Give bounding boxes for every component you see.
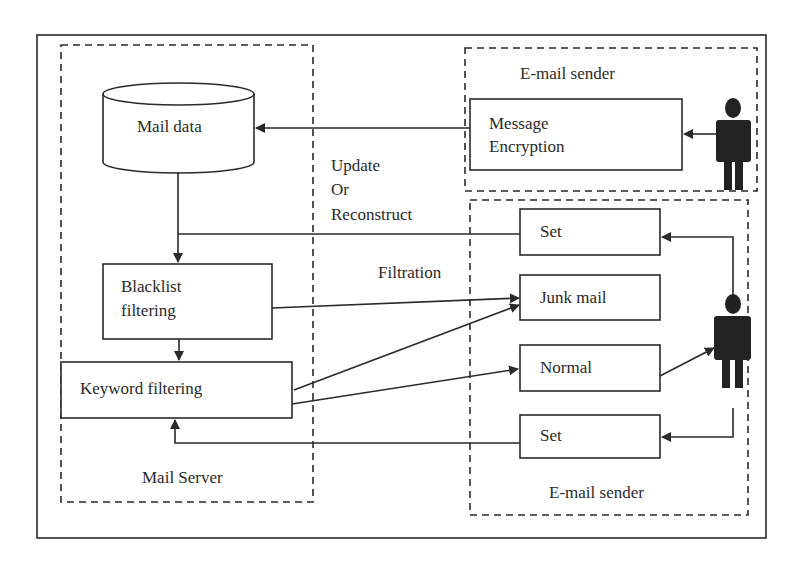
filtration-label: Filtration (378, 262, 441, 284)
encryption-label-1: Message (489, 113, 548, 135)
keyword-label: Keyword filtering (80, 378, 202, 400)
mail-data-label: Mail data (137, 116, 202, 138)
encryption-label-2: Encryption (489, 136, 565, 158)
arrow-keyword-to-junk (294, 305, 519, 390)
arrow-blacklist-to-junk (272, 298, 519, 308)
arrow-keyword-to-normal (292, 369, 518, 404)
update-label-1: Update (331, 155, 380, 177)
junk-label: Junk mail (540, 287, 607, 309)
update-label-2: Or (331, 179, 349, 201)
blacklist-label-1: Blacklist (121, 276, 181, 298)
arrow-set-to-keyword (175, 420, 520, 443)
person-icon-top (716, 98, 751, 190)
arrow-person-to-set-bottom (662, 408, 733, 437)
sender-top-title: E-mail sender (520, 63, 615, 85)
person-icon-bottom (714, 294, 751, 388)
arrow-person-to-set-top (662, 237, 733, 296)
blacklist-label-2: filtering (121, 300, 176, 322)
set-bottom-label: Set (540, 425, 562, 447)
arrow-normal-to-person (660, 348, 714, 376)
mail-server-title: Mail Server (142, 467, 223, 489)
update-label-3: Reconstruct (331, 204, 412, 226)
set-top-label: Set (540, 221, 562, 243)
normal-label: Normal (540, 357, 592, 379)
sender-bottom-title: E-mail sender (549, 482, 644, 504)
